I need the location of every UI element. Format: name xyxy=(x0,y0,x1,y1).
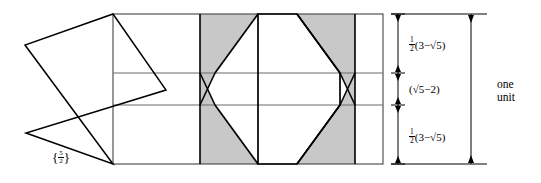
head-bottom-up xyxy=(395,156,401,163)
shade-left-mid-upper xyxy=(200,73,215,89)
geometric-diagram xyxy=(0,0,541,183)
shade-right-top xyxy=(297,14,355,73)
pentagram-star xyxy=(25,14,166,164)
label-band-middle-expression: (√5−2) xyxy=(409,83,440,95)
head-mid-up xyxy=(395,97,401,104)
label-one-unit: one unit xyxy=(497,78,515,104)
head-upper-up xyxy=(395,65,401,72)
dimension-arrows-inner xyxy=(391,14,405,164)
label-band-top: 12(3−√5) xyxy=(409,36,445,52)
shade-left-mid-lower xyxy=(200,89,215,105)
label-band-bottom: 12(3−√5) xyxy=(409,128,445,144)
label-band-middle: (√5−2) xyxy=(409,83,440,95)
shade-left-bottom xyxy=(200,105,258,164)
head-bottom-down xyxy=(395,106,401,113)
label-band-top-expression: (3−√5) xyxy=(415,39,446,51)
schlafli-symbol: {52} xyxy=(52,150,70,165)
shade-right-mid-upper xyxy=(340,73,355,89)
label-band-bottom-expression: (3−√5) xyxy=(415,131,446,143)
oneunit-head-bottom xyxy=(468,155,474,163)
label-one-unit-line1: one xyxy=(497,78,515,91)
head-top-down xyxy=(395,15,401,22)
oneunit-head-top xyxy=(468,15,474,23)
shade-left-top xyxy=(200,14,258,73)
x-crossings xyxy=(200,73,355,105)
shade-right-mid-lower xyxy=(340,89,355,105)
head-mid-down xyxy=(395,74,401,81)
shade-right-bottom xyxy=(297,105,355,164)
shaded-regions xyxy=(200,14,355,164)
schlafli-close-brace: } xyxy=(64,150,70,165)
label-one-unit-line2: unit xyxy=(497,91,515,104)
